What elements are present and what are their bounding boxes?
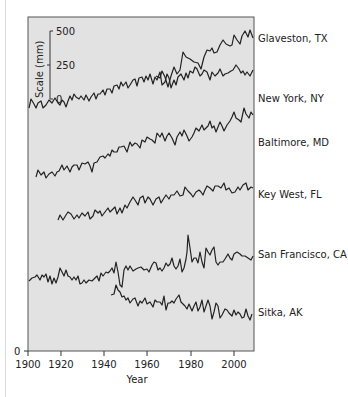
series-label-key-west: Key West, FL <box>258 189 322 200</box>
sea-level-chart: 500 250 0 Scale (mm) Glaveston, TX New Y… <box>0 0 348 397</box>
x-tick-1980: 1980 <box>178 359 203 370</box>
x-tick-1920: 1920 <box>48 359 73 370</box>
series-label-sitka: Sitka, AK <box>258 307 303 318</box>
series-label-baltimore: Baltimore, MD <box>258 137 329 148</box>
x-tick-2000: 2000 <box>221 359 246 370</box>
series-label-galveston: Glaveston, TX <box>258 33 328 44</box>
series-label-new-york: New York, NY <box>258 93 325 104</box>
x-tick-1940: 1940 <box>91 359 116 370</box>
x-tick-1960: 1960 <box>134 359 159 370</box>
scale-500-label: 500 <box>56 26 75 37</box>
x-axis-title: Year <box>125 374 148 385</box>
scale-250-label: 250 <box>56 60 75 71</box>
x-axis <box>24 351 234 356</box>
y-zero-label: 0 <box>14 346 20 357</box>
series-label-san-francisco: San Francisco, CA <box>258 249 347 260</box>
x-tick-1900: 1900 <box>15 359 40 370</box>
scale-title: Scale (mm) <box>34 41 45 98</box>
